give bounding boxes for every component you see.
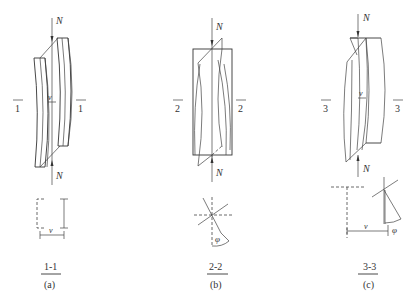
axial-force-bottom-arrow (51, 160, 54, 185)
cross-section-1-1: v (37, 199, 68, 239)
displacement-label: v (359, 89, 363, 98)
panel-caption: (b) (210, 279, 222, 291)
cross-section-3-3: φ v (331, 177, 401, 238)
column-deformed-front (34, 58, 49, 167)
axial-force-top-arrow (211, 40, 214, 46)
force-label-bottom: N (362, 163, 371, 174)
panel-caption: (a) (44, 279, 55, 291)
axial-force-bottom-arrow (211, 157, 214, 163)
cross-section-2-2: φ (194, 197, 232, 246)
panel-c: N v N 3 3 (321, 12, 403, 291)
panel-caption: (c) (363, 279, 374, 291)
axial-force-top-arrow (357, 31, 360, 37)
section-mark-right: 1 (76, 100, 86, 114)
displacement-label: v (48, 93, 52, 102)
force-label-top: N (362, 12, 371, 23)
section-title: 2-2 (209, 261, 222, 272)
section-mark-left: 3 (323, 103, 328, 114)
buckling-modes-diagram: N v N 1 (0, 0, 414, 303)
rotation-angle-label: φ (392, 225, 397, 235)
section-displacement-label: v (364, 222, 368, 231)
section-mark-left: 1 (13, 100, 23, 114)
section-mark-left: 2 (175, 103, 180, 114)
force-label-bottom: N (215, 167, 224, 178)
column-twisted-plate (195, 38, 231, 166)
axial-force-top-arrow (51, 18, 54, 42)
column-deformed-back (57, 38, 72, 146)
axial-force-bottom-arrow (357, 155, 360, 161)
section-mark-right: 2 (238, 103, 243, 114)
force-label-bottom: N (55, 170, 64, 181)
force-label-top: N (55, 15, 64, 26)
panel-b: N N 2 2 (173, 18, 246, 291)
section-displacement-label: v (49, 226, 53, 235)
panel-a: N v N 1 (13, 15, 86, 291)
section-title: 3-3 (363, 261, 376, 272)
svg-text:1: 1 (78, 103, 83, 114)
section-title: 1-1 (44, 261, 57, 272)
section-mark-right: 3 (395, 103, 400, 114)
column-twisted-front (344, 38, 368, 162)
force-label-top: N (215, 21, 224, 32)
rotation-angle-label: φ (215, 234, 220, 244)
svg-text:1: 1 (15, 103, 20, 114)
